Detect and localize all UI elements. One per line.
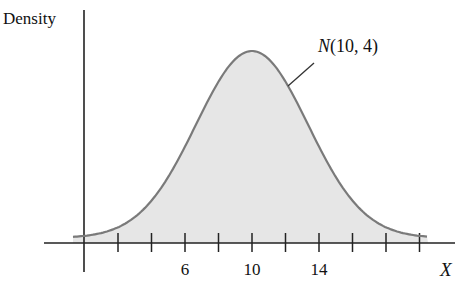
- x-axis-tick-labels: 61014: [181, 260, 328, 279]
- distribution-annotation: N(10, 4): [317, 36, 378, 57]
- x-tick-label: 10: [244, 260, 261, 279]
- x-tick-label: 6: [181, 260, 190, 279]
- annotation-italic-n: N: [317, 36, 331, 56]
- normal-density-chart: N(10, 4) Density 61014 X: [0, 0, 457, 287]
- annotation-leader-line: [288, 63, 314, 86]
- x-axis-label: X: [439, 259, 453, 280]
- density-area-fill: [73, 51, 428, 243]
- x-tick-label: 14: [311, 260, 329, 279]
- annotation-params: (10, 4): [330, 36, 378, 57]
- y-axis-label: Density: [3, 9, 56, 28]
